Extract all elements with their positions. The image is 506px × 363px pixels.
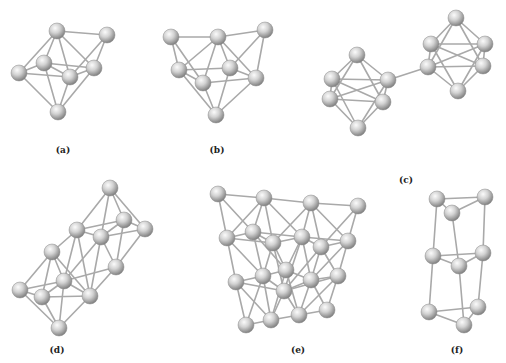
panel-a: (a) (11, 23, 115, 155)
panel-label: (f) (451, 345, 463, 355)
atom (222, 60, 238, 76)
atom (245, 224, 261, 240)
atom (278, 262, 294, 278)
atom (475, 58, 491, 74)
atom (256, 190, 272, 206)
atom (248, 70, 264, 86)
panel-b: (b) (163, 22, 273, 155)
atom (349, 47, 365, 63)
bonds (218, 194, 358, 325)
atom (50, 104, 66, 120)
panel-label: (a) (56, 145, 70, 155)
atom (49, 23, 65, 39)
atom (82, 288, 98, 304)
atom (255, 268, 271, 284)
atom (350, 198, 366, 214)
atom (324, 71, 340, 87)
bond (483, 197, 485, 253)
atom (470, 299, 486, 315)
panel-label: (d) (50, 345, 65, 355)
bond (429, 256, 433, 312)
atom (291, 307, 307, 323)
atom (44, 244, 60, 260)
atom (421, 304, 437, 320)
bond (179, 70, 216, 115)
atom (265, 235, 281, 251)
atom (137, 221, 153, 237)
atom (210, 29, 226, 45)
panel-d: (d) (12, 180, 153, 355)
bond (332, 79, 388, 80)
atom (475, 245, 491, 261)
atom (319, 302, 335, 318)
atom (375, 94, 391, 110)
atom (99, 27, 115, 43)
bond (459, 266, 464, 325)
atoms (421, 189, 493, 333)
atom (429, 191, 445, 207)
panel-label: (e) (291, 345, 305, 355)
bonds (330, 18, 485, 128)
atom (444, 205, 460, 221)
atom (420, 59, 436, 75)
atom (322, 91, 338, 107)
atom (257, 22, 273, 38)
atom (219, 230, 235, 246)
atom (56, 273, 72, 289)
atom (102, 180, 118, 196)
atom (51, 320, 67, 336)
atom (34, 289, 50, 305)
atom (195, 75, 211, 91)
bond (428, 66, 483, 67)
bond (433, 199, 437, 256)
atom (451, 258, 467, 274)
atom (86, 60, 102, 76)
atom (238, 317, 254, 333)
atom (450, 83, 466, 99)
atom (330, 268, 346, 284)
atom (36, 55, 52, 71)
atom (350, 120, 366, 136)
atom (62, 69, 78, 85)
atom (12, 282, 28, 298)
atom (303, 195, 319, 211)
atom (163, 29, 179, 45)
atom (11, 65, 27, 81)
atom (171, 62, 187, 78)
atom (93, 229, 109, 245)
atom (69, 222, 85, 238)
panel-label: (b) (210, 145, 225, 155)
bonds (20, 188, 145, 328)
panel-f: (f) (421, 189, 493, 355)
atom (210, 186, 226, 202)
atom (208, 107, 224, 123)
panel-e: (e) (210, 186, 366, 355)
atom (228, 274, 244, 290)
atom (263, 312, 279, 328)
atom (116, 212, 132, 228)
atom (294, 229, 310, 245)
atom (423, 36, 439, 52)
atom (448, 10, 464, 26)
atom (477, 36, 493, 52)
atom (456, 317, 472, 333)
bond (90, 237, 101, 296)
atom (313, 239, 329, 255)
atom (380, 72, 396, 88)
cluster-figure: (a)(b)(c)(d)(e)(f) (0, 0, 506, 363)
atom (340, 233, 356, 249)
atom (477, 189, 493, 205)
atom (108, 259, 124, 275)
atom (425, 248, 441, 264)
panel-label: (c) (399, 175, 413, 185)
panel-c: (c) (322, 10, 493, 185)
atom (303, 272, 319, 288)
atom (276, 283, 292, 299)
bond (52, 252, 90, 296)
